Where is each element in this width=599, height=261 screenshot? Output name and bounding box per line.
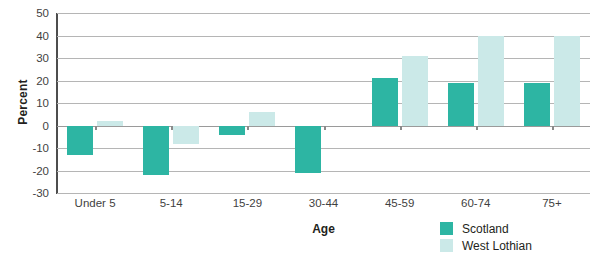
x-tick-label: Under 5: [57, 197, 133, 209]
bar-scotland: [143, 126, 169, 176]
legend-item: Scotland: [440, 220, 532, 237]
y-tick-label: -30: [0, 187, 49, 199]
plot-area: [57, 13, 590, 193]
x-tick-label: 5-14: [133, 197, 209, 209]
bar-scotland: [448, 83, 474, 126]
bar-west-lothian: [249, 112, 275, 126]
legend: ScotlandWest Lothian: [440, 220, 532, 254]
x-tick: [552, 126, 554, 130]
bar-group: [285, 13, 361, 193]
legend-swatch-icon: [440, 222, 453, 235]
x-axis-tick-labels: Under 55-1415-2930-4445-5960-7475+: [57, 197, 590, 209]
y-tick-label: -20: [0, 165, 49, 177]
bar-group: [514, 13, 590, 193]
bar-group: [57, 13, 133, 193]
y-tick-label: 20: [0, 75, 49, 87]
bar-chart: Percent 50403020100-10-20-30 Under 55-14…: [0, 0, 599, 261]
bar-groups: [57, 13, 590, 193]
bar-west-lothian: [173, 126, 199, 144]
y-tick-label: 50: [0, 7, 49, 19]
bar-scotland: [219, 126, 245, 135]
x-tick: [324, 126, 326, 130]
y-tick-label: 10: [0, 97, 49, 109]
bar-group: [209, 13, 285, 193]
bar-west-lothian: [97, 121, 123, 126]
x-tick: [247, 126, 249, 130]
x-tick: [476, 126, 478, 130]
bar-group: [362, 13, 438, 193]
x-tick: [400, 126, 402, 130]
x-tick: [95, 126, 97, 130]
bar-scotland: [524, 83, 550, 126]
x-tick-label: 75+: [514, 197, 590, 209]
legend-label: Scotland: [462, 222, 509, 236]
bar-scotland: [67, 126, 93, 155]
x-tick: [171, 126, 173, 130]
legend-swatch-icon: [440, 239, 453, 252]
bar-scotland: [295, 126, 321, 173]
x-tick-label: 60-74: [438, 197, 514, 209]
y-tick-label: -10: [0, 142, 49, 154]
gridline--30: [57, 193, 590, 194]
y-tick-label: 0: [0, 120, 49, 132]
legend-label: West Lothian: [462, 239, 532, 253]
y-tick-label: 30: [0, 52, 49, 64]
x-tick-label: 15-29: [209, 197, 285, 209]
bar-west-lothian: [402, 56, 428, 126]
x-tick-label: 45-59: [362, 197, 438, 209]
legend-item: West Lothian: [440, 237, 532, 254]
bar-group: [133, 13, 209, 193]
bar-west-lothian: [478, 36, 504, 126]
bar-scotland: [372, 78, 398, 125]
y-tick-label: 40: [0, 30, 49, 42]
bar-group: [438, 13, 514, 193]
x-tick-label: 30-44: [285, 197, 361, 209]
bar-west-lothian: [554, 36, 580, 126]
